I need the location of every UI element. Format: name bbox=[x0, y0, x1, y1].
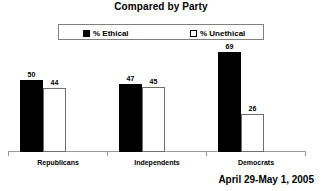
legend-label-ethical: % Ethical bbox=[93, 29, 129, 38]
bar-value-label: 44 bbox=[37, 79, 72, 87]
bar-republicans-ethical[interactable] bbox=[20, 80, 43, 152]
bar-value-label: 45 bbox=[136, 78, 171, 86]
chart-title: Compared by Party bbox=[0, 1, 322, 13]
legend-entry-unethical[interactable]: % Unethical bbox=[190, 27, 245, 39]
date-range-label: April 29-May 1, 2005 bbox=[218, 174, 314, 186]
bar-value-label: 26 bbox=[235, 105, 270, 113]
axis-tick bbox=[206, 152, 207, 156]
filled-square-icon bbox=[83, 30, 90, 37]
bar-wrap: 44 bbox=[43, 44, 66, 152]
category-label-democrats: Democrats bbox=[211, 158, 301, 167]
bar-democrats-ethical[interactable] bbox=[218, 52, 241, 152]
bar-democrats-unethical[interactable] bbox=[241, 114, 264, 152]
legend-label-unethical: % Unethical bbox=[200, 29, 245, 38]
bar-wrap: 26 bbox=[241, 44, 264, 152]
category-label-republicans: Republicans bbox=[13, 158, 103, 167]
axis-tick bbox=[305, 152, 306, 156]
category-label-independents: Independents bbox=[112, 158, 202, 167]
plot-area: 50 44 47 45 bbox=[8, 44, 306, 152]
hollow-square-icon bbox=[190, 30, 197, 37]
bar-independents-unethical[interactable] bbox=[142, 87, 165, 152]
bar-wrap: 69 bbox=[218, 44, 241, 152]
bar-independents-ethical[interactable] bbox=[119, 84, 142, 152]
legend-entry-ethical[interactable]: % Ethical bbox=[83, 27, 129, 39]
bar-chart: Compared by Party % Ethical % Unethical … bbox=[0, 0, 322, 191]
bar-wrap: 47 bbox=[119, 44, 142, 152]
axis-tick bbox=[107, 152, 108, 156]
axis-tick bbox=[8, 152, 9, 156]
bar-wrap: 50 bbox=[20, 44, 43, 152]
bar-republicans-unethical[interactable] bbox=[43, 88, 66, 152]
bar-wrap: 45 bbox=[142, 44, 165, 152]
chart-legend: % Ethical % Unethical bbox=[58, 24, 264, 40]
